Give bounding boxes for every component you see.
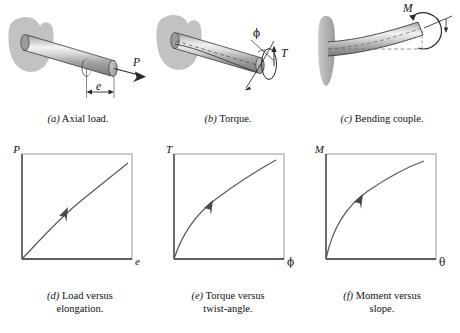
panel-torque: ϕ T xyxy=(152,0,304,112)
torque-label: T xyxy=(281,47,289,59)
plot-e-y-axis-label: T xyxy=(166,144,173,155)
plot-torque-vs-twist-angle: T ϕ xyxy=(156,144,308,272)
plot-frame xyxy=(174,154,284,259)
plot-d-body: P e xyxy=(4,144,156,272)
plot-e-body: T ϕ xyxy=(156,144,308,272)
axial-load-illustration: P e xyxy=(2,0,154,112)
caption-moment-vs-slope: (f) Moment versus slope. xyxy=(306,290,458,315)
torque-svg: ϕ T xyxy=(152,0,304,112)
panel-bending-couple: M xyxy=(306,0,458,112)
elongation-label: e xyxy=(96,80,101,92)
caption-torque-vs-twist-angle: (e) Torque versus twist-angle. xyxy=(152,290,304,315)
caption-text-e-1: Torque versus xyxy=(206,290,265,301)
plot-e-x-axis-label: ϕ xyxy=(287,256,294,268)
plot-frame xyxy=(22,154,132,259)
caption-text-f-2: slope. xyxy=(306,303,458,316)
caption-letter-f: (f) xyxy=(343,290,353,301)
caption-letter-c: (c) xyxy=(340,113,352,124)
slope-angle-marker xyxy=(424,16,452,33)
caption-e-line1: (e) Torque versus xyxy=(152,290,304,303)
axial-force-arrow xyxy=(114,69,146,83)
caption-letter-e: (e) xyxy=(191,290,203,301)
caption-text-a: Axial load. xyxy=(62,113,109,124)
axial-force-label: P xyxy=(132,56,140,68)
twist-angle-label: ϕ xyxy=(253,27,260,39)
plot-frame xyxy=(326,154,436,259)
torque-illustration: ϕ T xyxy=(152,0,304,112)
caption-text-b: Torque. xyxy=(219,113,251,124)
caption-letter-a: (a) xyxy=(48,113,60,124)
caption-torque: (b) Torque. xyxy=(152,113,304,126)
plot-e-svg: T ϕ xyxy=(156,144,308,272)
caption-axial-load: (a) Axial load. xyxy=(2,113,154,126)
plot-f-x-axis-label: θ xyxy=(439,256,445,268)
caption-bending-couple: (c) Bending couple. xyxy=(306,113,458,126)
caption-f-line1: (f) Moment versus xyxy=(306,290,458,303)
figure-root: P e (a) Axial load. xyxy=(0,0,460,333)
plot-f-body: M θ xyxy=(308,144,460,272)
plot-f-y-axis-label: M xyxy=(314,144,325,155)
moment-label: M xyxy=(402,2,414,14)
caption-text-f-1: Moment versus xyxy=(356,290,421,301)
caption-text-e-2: twist-angle. xyxy=(152,303,304,316)
axial-load-svg: P e xyxy=(2,0,154,112)
bending-couple-illustration: M xyxy=(306,0,458,112)
caption-text-c: Bending couple. xyxy=(355,113,424,124)
bending-couple-svg: M xyxy=(306,0,458,112)
caption-text-d-1: Load versus xyxy=(62,290,113,301)
caption-letter-d: (d) xyxy=(47,290,59,301)
caption-load-vs-elongation: (d) Load versus elongation. xyxy=(4,290,156,315)
caption-d-line1: (d) Load versus xyxy=(4,290,156,303)
plot-d-svg: P e xyxy=(4,144,156,272)
plot-load-vs-elongation: P e xyxy=(4,144,156,272)
bent-beam xyxy=(328,22,423,56)
plot-moment-vs-slope: M θ xyxy=(308,144,460,272)
plot-d-y-axis-label: P xyxy=(12,144,20,155)
panel-axial-load: P e xyxy=(2,0,154,112)
caption-text-d-2: elongation. xyxy=(4,303,156,316)
caption-letter-b: (b) xyxy=(205,113,217,124)
plot-d-x-axis-label: e xyxy=(135,255,140,267)
plot-f-svg: M θ xyxy=(308,144,460,272)
